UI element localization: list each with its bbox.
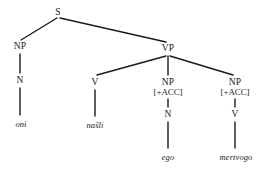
- tree-node-s: S: [55, 8, 60, 18]
- tree-node-vp: VP: [162, 44, 175, 54]
- tree-node-v-predicative: V: [231, 110, 238, 120]
- syntax-tree-diagram: S NP VP N V NP [+ACC] NP [+ACC] N V oni …: [0, 0, 275, 182]
- tree-edge: [60, 18, 166, 42]
- tree-leaf-nasli: naŝli: [86, 120, 103, 130]
- node-label: V: [91, 78, 98, 88]
- node-label: S: [55, 8, 60, 18]
- tree-leaf-mertvogo: mertvogo: [220, 152, 253, 162]
- tree-node-n-subject: N: [16, 76, 23, 86]
- tree-node-np-predicative: NP [+ACC]: [221, 78, 250, 97]
- node-label: V: [231, 110, 238, 120]
- node-feature-acc: [+ACC]: [154, 88, 183, 97]
- tree-node-v-main: V: [91, 78, 98, 88]
- node-label: N: [164, 110, 171, 120]
- tree-node-np-subject: NP: [14, 42, 27, 52]
- node-label: VP: [162, 44, 175, 54]
- tree-node-np-object: NP [+ACC]: [154, 78, 183, 97]
- tree-node-n-object: N: [164, 110, 171, 120]
- node-label: NP: [14, 42, 27, 52]
- node-label: N: [16, 76, 23, 86]
- node-feature-acc: [+ACC]: [221, 88, 250, 97]
- tree-edge: [97, 56, 166, 75]
- tree-edge: [21, 18, 57, 40]
- tree-edge: [170, 56, 233, 75]
- tree-leaf-oni: oni: [15, 119, 26, 129]
- tree-leaf-ego: ego: [162, 152, 175, 162]
